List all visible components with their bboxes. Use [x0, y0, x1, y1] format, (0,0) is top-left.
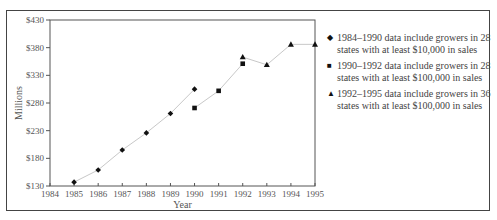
x-tick-label: 1987	[113, 189, 132, 199]
square-marker-icon	[240, 61, 245, 66]
y-axis-label: Millions	[13, 86, 24, 120]
legend-text-line2: states with at least $100,000 in sales	[337, 100, 492, 112]
x-tick-label: 1993	[258, 189, 277, 199]
legend-text-line2: states with at least $100,000 in sales	[337, 72, 492, 84]
triangle-marker-icon: ▲	[327, 88, 335, 100]
x-tick-label: 1990	[186, 189, 205, 199]
x-tick-label: 1988	[137, 189, 156, 199]
y-tick-label: $430	[26, 15, 45, 25]
x-tick-label: 1984	[41, 189, 60, 199]
y-tick-label: $280	[26, 98, 45, 108]
x-tick-label: 1992	[234, 189, 252, 199]
y-tick-label: $380	[26, 43, 45, 53]
series-line-3	[243, 44, 315, 64]
x-tick-label: 1995	[306, 189, 325, 199]
y-tick-label: $180	[26, 153, 45, 163]
x-tick-label: 1985	[65, 189, 84, 199]
y-tick-label: $230	[26, 126, 45, 136]
x-axis-label: Year	[173, 199, 192, 210]
x-tick-label: 1989	[161, 189, 180, 199]
square-marker-icon: ■	[327, 60, 332, 72]
plot-area	[50, 20, 315, 186]
legend-text-line1: 1984–1990 data include growers in 28	[337, 32, 492, 44]
legend-text-line2: states with at least $10,000 in sales	[337, 44, 492, 56]
legend-item-1984-1990: ◆ 1984–1990 data include growers in 28 s…	[327, 32, 492, 56]
x-tick-label: 1991	[210, 189, 228, 199]
diamond-marker-icon: ◆	[327, 32, 333, 44]
triangle-marker-icon	[240, 54, 246, 59]
square-marker-icon	[192, 106, 197, 111]
y-tick-label: $330	[26, 70, 45, 80]
legend-item-1992-1995: ▲ 1992–1995 data include growers in 36 s…	[327, 88, 492, 112]
series-line-2	[195, 64, 243, 108]
x-tick-label: 1986	[89, 189, 108, 199]
legend-text-line1: 1992–1995 data include growers in 36	[337, 88, 492, 100]
square-marker-icon	[216, 89, 221, 94]
diamond-marker-icon	[71, 179, 77, 185]
chart-legend: ◆ 1984–1990 data include growers in 28 s…	[327, 32, 492, 116]
series-line-1	[74, 89, 194, 182]
x-tick-label: 1994	[282, 189, 301, 199]
legend-text-line1: 1990–1992 data include growers in 28	[337, 60, 492, 72]
legend-item-1990-1992: ■ 1990–1992 data include growers in 28 s…	[327, 60, 492, 84]
